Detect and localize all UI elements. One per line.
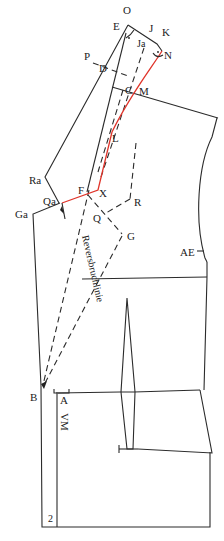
pattern-diagram: O E J K Ja N P D C M L Ra F X Qa R Ga Q … xyxy=(0,0,224,541)
label-ra: Ra xyxy=(29,174,41,186)
armhole-curve xyxy=(199,118,217,262)
label-x: X xyxy=(99,187,107,199)
right-angle-n xyxy=(153,53,163,57)
label-q: Q xyxy=(93,212,101,224)
label-reversbruchlinie: Reversbruchlinie xyxy=(80,234,106,304)
label-k: K xyxy=(162,26,170,38)
label-ae: AE xyxy=(180,246,195,258)
label-e: E xyxy=(113,20,120,32)
label-b: B xyxy=(30,391,37,403)
label-l: L xyxy=(112,132,119,144)
side-seam-upper xyxy=(204,262,207,390)
label-ga: Ga xyxy=(15,208,28,220)
label-p: P xyxy=(84,50,90,62)
label-ja: Ja xyxy=(137,38,146,49)
break-line xyxy=(43,190,89,385)
red-collar-line xyxy=(62,51,162,203)
b-arrowhead xyxy=(41,381,47,389)
stand-line xyxy=(87,33,126,192)
label-m: M xyxy=(139,85,149,97)
label-f: F xyxy=(78,184,84,196)
label-r: R xyxy=(134,196,142,208)
dart xyxy=(121,298,135,449)
dashed-r xyxy=(130,143,136,199)
label-2: 2 xyxy=(48,513,53,524)
dashed-g-b xyxy=(44,236,122,385)
label-g: G xyxy=(127,230,135,242)
label-n: N xyxy=(164,49,172,61)
waist-line xyxy=(58,390,200,393)
side-seam-right xyxy=(138,390,212,453)
label-a: A xyxy=(60,394,68,406)
dashed-r-q xyxy=(106,199,130,213)
right-angle-o xyxy=(126,30,134,38)
label-j: J xyxy=(149,22,154,34)
label-qa: Qa xyxy=(43,195,56,207)
label-c: C xyxy=(125,84,132,96)
label-o: O xyxy=(123,4,131,16)
label-d: D xyxy=(99,62,107,74)
label-vm: VM xyxy=(59,413,71,431)
